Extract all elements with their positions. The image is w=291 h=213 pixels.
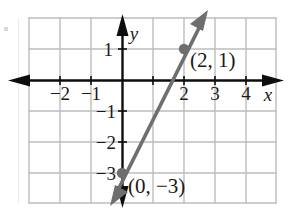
coordinate-graph-figure: −2 −1 2 3 4 1 −1 −2 −3 x y (2, 1) (0, −3… <box>0 0 291 213</box>
point-label-2-1: (2, 1) <box>190 48 236 72</box>
y-tick-label-neg3: −3 <box>96 163 116 184</box>
data-point-0-neg3 <box>117 168 127 178</box>
graph-svg: −2 −1 2 3 4 1 −1 −2 −3 x y (2, 1) (0, −3… <box>0 0 291 213</box>
y-tick-label-neg2: −2 <box>96 132 116 153</box>
x-tick-label-neg2: −2 <box>50 83 70 104</box>
y-tick-label-neg1: −1 <box>96 101 116 122</box>
page-artifact-mark <box>4 27 8 31</box>
y-axis-label: y <box>128 23 139 44</box>
point-label-0-neg3: (0, −3) <box>128 174 185 198</box>
x-tick-label-3: 3 <box>210 83 220 104</box>
x-tick-label-4: 4 <box>241 83 251 104</box>
y-tick-label-1: 1 <box>104 39 114 60</box>
x-axis-label: x <box>263 84 273 105</box>
data-point-2-1 <box>179 44 189 54</box>
x-tick-label-2: 2 <box>179 83 189 104</box>
